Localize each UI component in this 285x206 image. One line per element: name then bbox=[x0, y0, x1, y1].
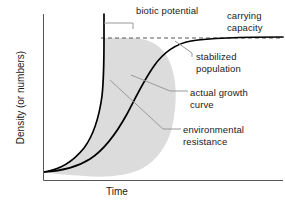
annotation-environmental-resistance-line2: resistance bbox=[183, 136, 244, 148]
environmental-resistance-shaded-area bbox=[44, 38, 176, 177]
annotation-environmental-resistance: environmental resistance bbox=[183, 124, 244, 147]
annotation-biotic-potential: biotic potential bbox=[136, 5, 198, 17]
annotation-actual-growth-curve-line2: curve bbox=[190, 99, 248, 111]
annotation-carrying-capacity: carrying capacity bbox=[227, 10, 263, 33]
annotation-actual-growth-curve-line1: actual growth bbox=[190, 87, 248, 99]
annotation-carrying-capacity-line1: carrying bbox=[227, 10, 263, 22]
annotation-stabilized-population: stabilized population bbox=[196, 51, 241, 74]
annotation-carrying-capacity-line2: capacity bbox=[227, 22, 263, 34]
annotation-environmental-resistance-line1: environmental bbox=[183, 124, 244, 136]
annotation-stabilized-population-line1: stabilized bbox=[196, 51, 241, 63]
y-axis-label: Density (or numbers) bbox=[15, 38, 26, 158]
population-growth-figure: biotic potential carrying capacity stabi… bbox=[0, 0, 285, 206]
annotation-stabilized-population-line2: population bbox=[196, 63, 241, 75]
x-axis-label: Time bbox=[106, 186, 128, 197]
annotation-actual-growth-curve: actual growth curve bbox=[190, 87, 248, 110]
biotic-potential-leader-line bbox=[104, 23, 133, 29]
